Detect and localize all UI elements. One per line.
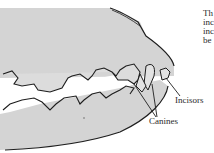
incisors-teeth [160, 68, 170, 80]
incisors-label: Incisors [175, 96, 204, 105]
jaw-illustration [0, 0, 214, 153]
canines-label: Canines [149, 117, 178, 126]
jaw-diagram: Incisors Canines Th inc inc be [0, 0, 214, 153]
side-text-line-4: be [203, 36, 212, 45]
